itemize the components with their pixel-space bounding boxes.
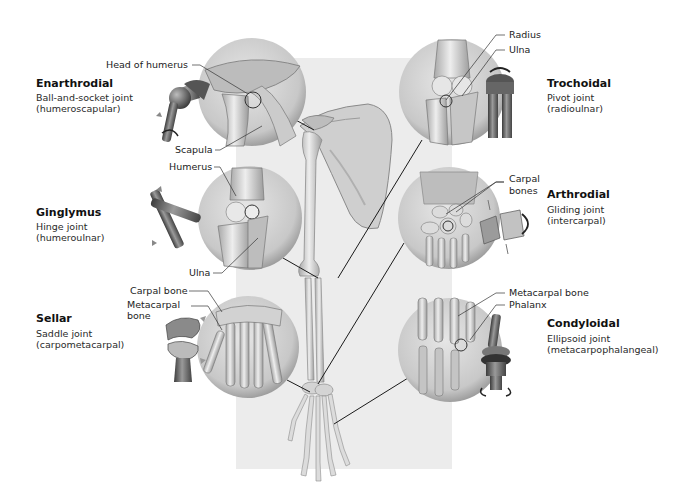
center-skeleton xyxy=(288,104,392,481)
callout-head-of-humerus: Head of humerus xyxy=(106,60,188,71)
humerus-shape xyxy=(299,132,322,276)
arthrodial-example: (intercarpal) xyxy=(547,216,606,227)
condyloidal-type: Ellipsoid joint xyxy=(547,334,610,345)
callout-humerus: Humerus xyxy=(169,162,212,173)
enarthrodial-example: (humeroscapular) xyxy=(36,104,120,115)
ginglymus-title: Ginglymus xyxy=(36,206,101,219)
anatomy-illustration xyxy=(0,0,680,497)
callout-metacarpal-bone: Metacarpal bone xyxy=(509,288,589,299)
arthrodial-type: Gliding joint xyxy=(547,205,604,216)
enarthrodial-type: Ball-and-socket joint xyxy=(36,93,133,104)
ginglymus-type: Hinge joint xyxy=(36,222,88,233)
ginglymus-example: (humeroulnar) xyxy=(36,233,104,244)
callout-radius: Radius xyxy=(509,30,541,41)
callout-ulna-right: Ulna xyxy=(509,45,530,56)
circle-ginglymus xyxy=(198,166,302,270)
arthrodial-title: Arthrodial xyxy=(547,188,610,201)
callout-phalanx: Phalanx xyxy=(509,300,547,311)
ulna-shape xyxy=(305,278,314,380)
enarthrodial-title: Enarthrodial xyxy=(36,77,113,90)
condyloidal-title: Condyloidal xyxy=(547,317,620,330)
trochoidal-title: Trochoidal xyxy=(547,77,611,90)
callout-carpal-bone: Carpal bone xyxy=(130,286,188,297)
condyloidal-example: (metacarpophalangeal) xyxy=(547,345,659,356)
trochoidal-type: Pivot joint xyxy=(547,93,594,104)
sellar-type: Saddle joint xyxy=(36,329,92,340)
circle-enarthrodial xyxy=(198,38,306,146)
hinge-model xyxy=(149,186,201,249)
callout-metacarpal-bone-word: bone xyxy=(127,311,151,322)
callout-scapula: Scapula xyxy=(175,145,213,156)
circle-arthrodial xyxy=(398,167,500,269)
callout-bones: bones xyxy=(509,186,538,197)
sellar-title: Sellar xyxy=(36,312,72,325)
callout-metacarpal: Metacarpal xyxy=(127,300,180,311)
circle-sellar xyxy=(197,296,299,398)
radius-shape xyxy=(315,278,324,382)
sellar-example: (carpometacarpal) xyxy=(36,340,124,351)
trochoidal-example: (radioulnar) xyxy=(547,104,603,115)
callout-ulna-left: Ulna xyxy=(189,268,210,279)
callout-carpal: Carpal xyxy=(509,174,540,185)
